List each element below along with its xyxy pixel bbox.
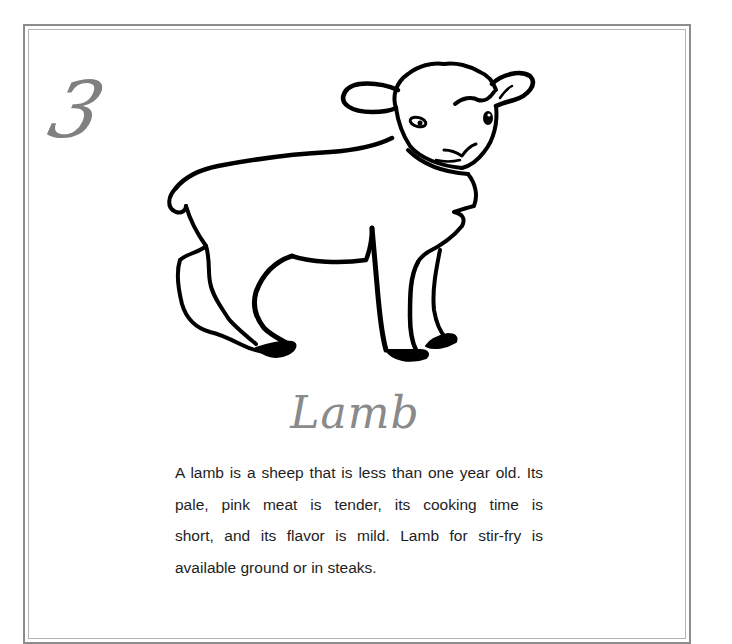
body-line: A lamb is a sheep that is less than one … (175, 457, 543, 489)
body-line: short, and its flavor is mild. Lamb for … (175, 520, 543, 552)
body-line: available ground or in steaks. (175, 552, 543, 584)
page-title: Lamb (250, 383, 460, 443)
body-line: pale, pink meat is tender, its cooking t… (175, 489, 543, 521)
body-paragraph: A lamb is a sheep that is less than one … (175, 457, 543, 583)
lamb-illustration (160, 55, 550, 375)
